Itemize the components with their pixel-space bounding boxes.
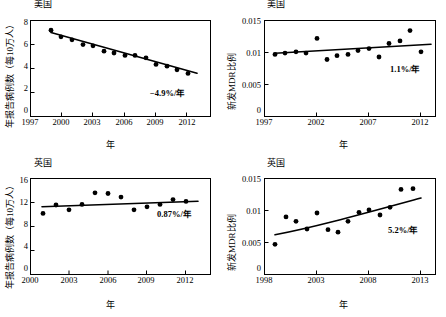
figure-four-panel-chart: 美国 年报告病例数（每10万人） 年 −4.9%/年 8 6 4 2 0 199… xyxy=(0,0,446,317)
panel-uk-mdr: 英国 新发MDR比例 年 5.2%/年 0.015 0.01 0.005 0 1… xyxy=(223,158,446,317)
plot-area-us-mdr xyxy=(223,0,446,158)
panel-us-incidence: 美国 年报告病例数（每10万人） 年 −4.9%/年 8 6 4 2 0 199… xyxy=(0,0,223,158)
plot-area-us-incidence xyxy=(0,0,223,158)
panel-us-mdr: 美国 新发MDR比例 年 1.1%/年 0.015 0.01 0.005 0 1… xyxy=(223,0,446,158)
panel-uk-incidence: 英国 年报告病例数（每10万人） 年 0.87%/年 16 12 8 4 0 2… xyxy=(0,158,223,317)
plot-area-uk-mdr xyxy=(223,158,446,317)
plot-area-uk-incidence xyxy=(0,158,223,317)
